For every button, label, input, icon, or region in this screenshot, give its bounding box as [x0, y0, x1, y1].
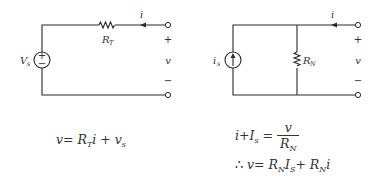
thevenin-resistor [99, 22, 115, 28]
eq2-r1-sub: N [278, 165, 285, 174]
current-label-i: i [140, 9, 143, 20]
norton-terminal-voltage-label: v [355, 55, 361, 66]
current-source-arrow-icon [231, 53, 236, 58]
thevenin-equation: v= RTi + vs [56, 132, 126, 147]
resistor-label-rt-sub: T [109, 39, 114, 47]
eq-i: i [92, 132, 96, 147]
norton-current-arrow-icon [331, 23, 337, 28]
norton-equation-2: ∴ v= RNIS+ RNi [235, 157, 330, 172]
eq1-fraction: v RN [277, 121, 299, 151]
eq2-r1: R [269, 157, 278, 172]
terminal-voltage-label: v [165, 55, 171, 66]
eq2-i: i [326, 157, 330, 172]
eq2-plus: + [295, 157, 305, 172]
eq-equals: = [63, 132, 73, 147]
eq-r: R [78, 132, 87, 147]
eq-v: v [56, 132, 63, 147]
eq2-therefore: ∴ [235, 157, 243, 172]
source-label-vs-sub: s [27, 60, 31, 68]
thevenin-terminal-top [165, 22, 170, 27]
thevenin-current-arrow-icon [140, 23, 146, 28]
norton-circuit: i s R N i + v − [213, 9, 362, 98]
norton-bottom-wire [233, 68, 355, 95]
norton-top-wire [233, 25, 355, 52]
source-label-is: i [213, 55, 216, 66]
thevenin-bottom-wire [42, 68, 165, 95]
eq1-I-sub: s [254, 136, 258, 145]
eq-plus: + [100, 132, 110, 147]
thevenin-circuit: + − V s R T i + v − [20, 9, 172, 98]
norton-terminal-bottom [355, 92, 360, 97]
norton-terminal-top [355, 22, 360, 27]
terminal-minus-label: − [164, 75, 172, 86]
eq2-v: v [247, 157, 254, 172]
eq-vs: v [115, 132, 122, 147]
eq1-den-sub: N [289, 144, 296, 153]
eq1-plus: + [239, 128, 249, 143]
source-minus-sign: − [38, 58, 46, 69]
norton-terminal-minus-label: − [354, 75, 362, 86]
resistor-label-rn-sub: N [309, 60, 316, 68]
eq2-r2: R [310, 157, 319, 172]
norton-resistor [294, 52, 300, 66]
norton-terminal-plus-label: + [354, 34, 362, 45]
eq2-equals: = [254, 157, 264, 172]
thevenin-top-wire-left [42, 25, 99, 52]
eq1-numerator: v [277, 121, 299, 136]
terminal-plus-label: + [164, 34, 172, 45]
eq1-den-r: R [280, 136, 289, 151]
eq-vs-sub: s [122, 140, 126, 149]
eq1-equals: = [263, 128, 273, 143]
norton-equation-1: i+Is = v RN [235, 121, 299, 151]
thevenin-terminal-bottom [165, 92, 170, 97]
source-label-is-sub: s [217, 60, 221, 68]
norton-current-label-i: i [331, 9, 334, 20]
eq1-denominator: RN [277, 136, 299, 151]
